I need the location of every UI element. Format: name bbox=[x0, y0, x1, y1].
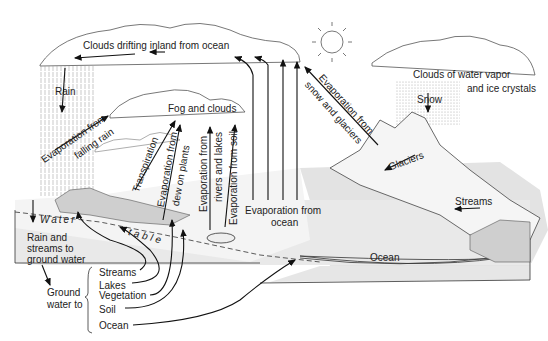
label-gw-soil: Soil bbox=[99, 304, 116, 315]
label-evap-ocean-2: ocean bbox=[271, 217, 298, 228]
label-water: Water bbox=[40, 214, 77, 225]
water-cycle-diagram bbox=[0, 0, 548, 341]
label-clouds-drifting: Clouds drifting inland from ocean bbox=[83, 40, 229, 51]
label-evap-ocean-1: Evaporation from bbox=[245, 205, 321, 216]
label-ground-water-2: water to bbox=[47, 299, 83, 310]
label-evap-soil: Evaporation from soil bbox=[228, 131, 239, 225]
label-rain-streams-2: streams to bbox=[27, 243, 74, 254]
label-evap-rivers-1: Evaporation from bbox=[198, 136, 209, 212]
label-streams-right: Streams bbox=[455, 196, 492, 207]
label-evap-rivers-2: rivers and lakes bbox=[213, 132, 224, 202]
label-gw-vegetation: Vegetation bbox=[99, 290, 146, 301]
label-fog-clouds: Fog and clouds bbox=[168, 103, 236, 114]
label-rain-streams-1: Rain and bbox=[27, 232, 67, 243]
label-gw-ocean: Ocean bbox=[99, 320, 128, 331]
label-rain: Rain bbox=[55, 86, 76, 97]
sun-icon bbox=[312, 22, 352, 62]
label-gw-streams: Streams bbox=[99, 267, 136, 278]
label-ocean-bottom: Ocean bbox=[370, 252, 399, 263]
label-snow: Snow bbox=[417, 94, 442, 105]
label-clouds-vapor-2: and ice crystals bbox=[467, 83, 536, 94]
label-clouds-vapor-1: Clouds of water vapor bbox=[413, 69, 510, 80]
label-rain-streams-3: ground water bbox=[27, 254, 85, 265]
lake bbox=[207, 233, 235, 243]
label-ground-water-1: Ground bbox=[47, 287, 80, 298]
